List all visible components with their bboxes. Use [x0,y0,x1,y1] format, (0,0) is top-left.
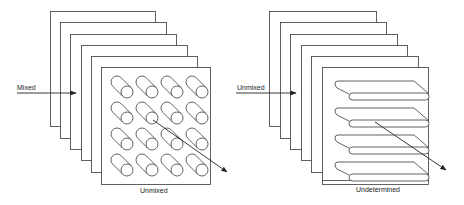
cylinder-end [196,86,208,98]
plate-front-edge [349,93,429,100]
cylinder-end [171,86,183,98]
cylinder-end [171,112,183,124]
cylinder-end [146,86,158,98]
unmixed-output-label: Unmixed [140,187,168,194]
plate-front-edge [349,174,429,181]
cylinder-end [121,138,133,150]
cylinder-end [196,138,208,150]
unmixed-input-label: Unmixed [237,84,265,91]
diagram-canvas: Mixed Unmixed Unmixed Undetermined [0,0,464,205]
cylinder-end [196,112,208,124]
undetermined-output-label: Undetermined [356,186,400,193]
mixed-to-unmixed-diagram [17,12,227,185]
cylinder-end [196,164,208,176]
cylinder-end [121,86,133,98]
unmixed-to-undetermined-diagram [236,12,446,185]
diagram-svg [0,0,464,205]
plate-front-edge [349,120,429,127]
cylinder-end [121,112,133,124]
mixed-input-label: Mixed [17,84,36,91]
cylinder-end [121,164,133,176]
cylinder-end [171,164,183,176]
cylinder-end [146,164,158,176]
cylinder-end [146,138,158,150]
